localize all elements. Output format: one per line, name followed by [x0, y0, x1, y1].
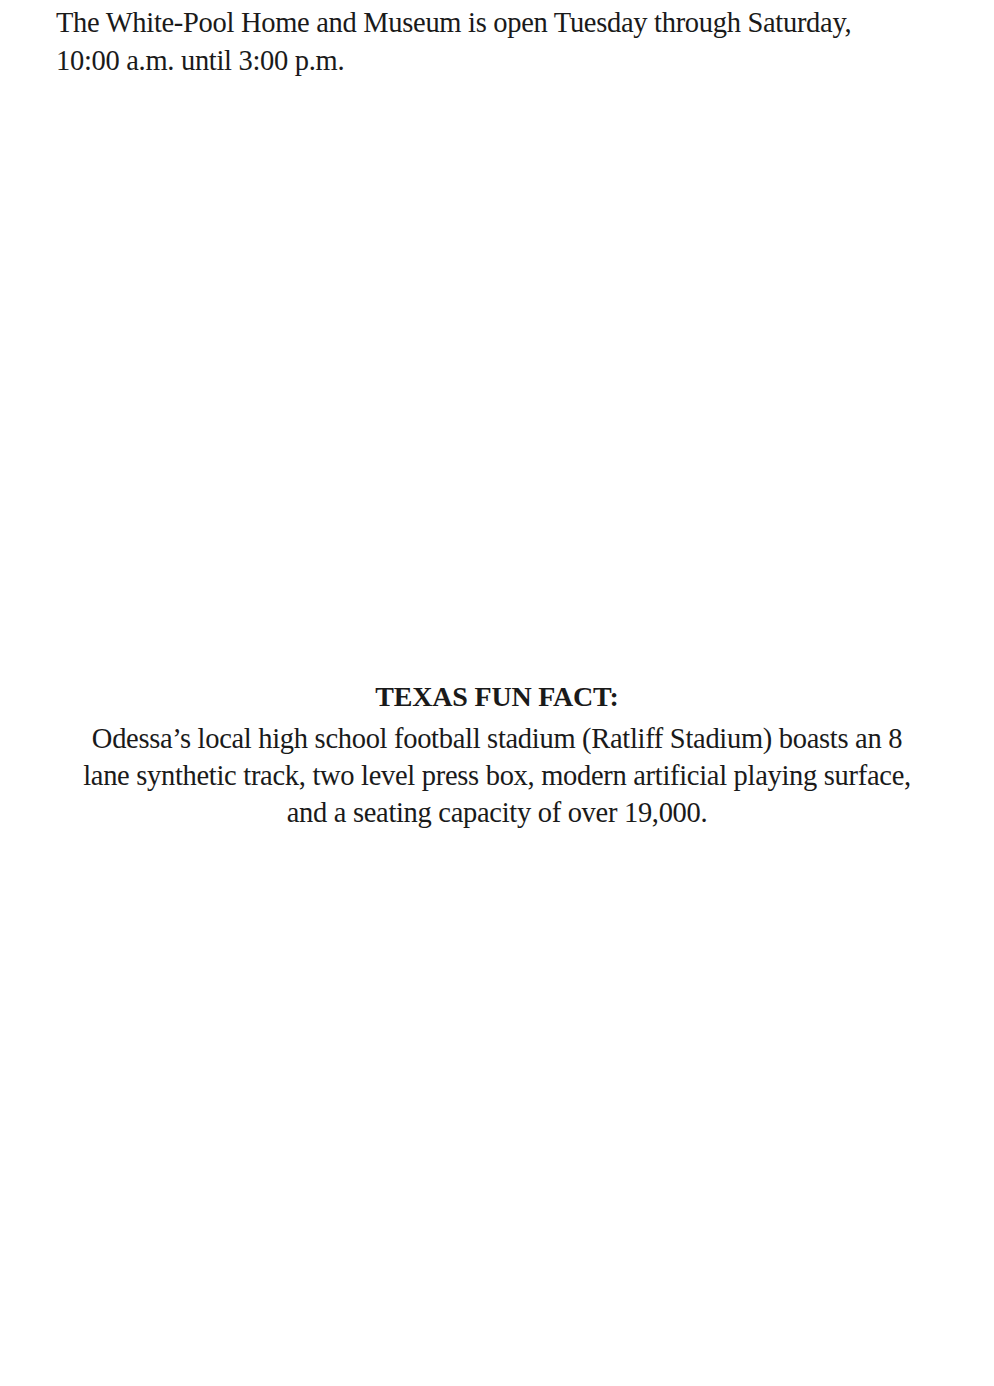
fun-fact-body: Odessa’s local high school football stad… — [30, 720, 964, 831]
fun-fact-line-1: Odessa’s local high school football stad… — [30, 720, 964, 757]
museum-hours-line-1: The White-Pool Home and Museum is open T… — [56, 4, 956, 42]
fun-fact-line-3: and a seating capacity of over 19,000. — [30, 794, 964, 831]
fun-fact-line-2: lane synthetic track, two level press bo… — [30, 757, 964, 794]
texas-fun-fact: TEXAS FUN FACT: Odessa’s local high scho… — [30, 678, 964, 831]
fun-fact-heading: TEXAS FUN FACT: — [30, 678, 964, 716]
museum-hours-line-2: 10:00 a.m. until 3:00 p.m. — [56, 42, 956, 80]
museum-hours-paragraph: The White-Pool Home and Museum is open T… — [56, 4, 956, 80]
